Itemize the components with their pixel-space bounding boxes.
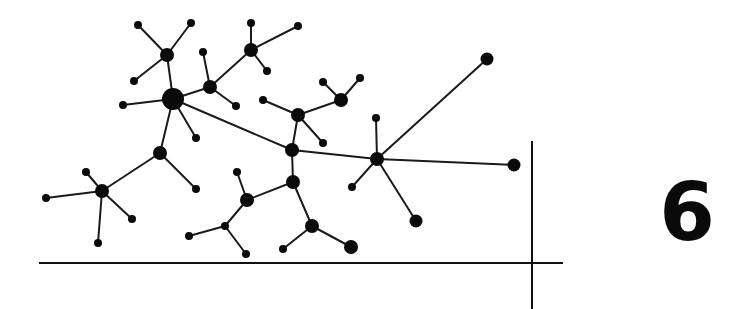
graph-edge: [293, 182, 312, 226]
graph-node: [160, 48, 174, 62]
graph-node: [481, 53, 494, 66]
graph-node: [305, 219, 319, 233]
axes: [39, 141, 563, 309]
graph-node: [192, 185, 200, 193]
graph-node: [508, 159, 521, 172]
graph-node: [95, 184, 109, 198]
graph-node: [128, 215, 136, 223]
graph-edge: [247, 182, 293, 200]
graph-node: [130, 77, 138, 85]
graph-edge: [377, 159, 416, 221]
graph-node: [240, 193, 254, 207]
graph-edge: [225, 226, 246, 254]
graph-edge: [46, 191, 102, 198]
graph-node: [232, 102, 240, 110]
graph-node: [348, 183, 356, 191]
graph-edge: [160, 153, 196, 189]
graph-node: [285, 143, 299, 157]
graph-node: [203, 80, 217, 94]
graph-edge: [98, 191, 102, 243]
graph-node: [372, 114, 380, 122]
graph-node: [259, 96, 267, 104]
graph-node: [187, 19, 195, 27]
graph-node: [370, 152, 384, 166]
graph-node: [233, 168, 241, 176]
graph-node: [291, 108, 305, 122]
graph-edge: [377, 159, 514, 165]
edges: [46, 23, 514, 254]
nodes: [42, 19, 521, 258]
graph-node: [344, 240, 358, 254]
graph-edge: [102, 153, 160, 191]
graph-node: [319, 139, 327, 147]
figure-number-label: 6: [656, 168, 718, 258]
graph-node: [162, 88, 184, 110]
graph-node: [319, 78, 327, 86]
graph-node: [279, 245, 287, 253]
network-diagram: [0, 0, 740, 309]
graph-node: [185, 232, 193, 240]
graph-node: [199, 48, 207, 56]
graph-node: [263, 67, 271, 75]
figure-canvas: 6: [0, 0, 740, 309]
graph-node: [410, 215, 423, 228]
graph-node: [119, 101, 127, 109]
graph-node: [286, 175, 300, 189]
graph-node: [82, 168, 90, 176]
graph-edge: [377, 59, 487, 159]
graph-node: [42, 194, 50, 202]
graph-node: [294, 22, 302, 30]
graph-node: [334, 93, 348, 107]
graph-node: [244, 43, 258, 57]
graph-node: [221, 222, 229, 230]
graph-node: [153, 146, 167, 160]
graph-edge: [189, 226, 225, 236]
graph-node: [192, 134, 200, 142]
graph-edge: [210, 50, 251, 87]
graph-node: [242, 250, 250, 258]
graph-node: [247, 19, 255, 27]
graph-edge: [292, 150, 377, 159]
graph-node: [134, 21, 142, 29]
graph-node: [94, 239, 102, 247]
graph-edge: [251, 26, 298, 50]
graph-node: [356, 74, 364, 82]
